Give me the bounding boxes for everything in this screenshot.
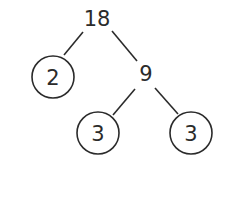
node-label-2: 2 — [46, 66, 59, 90]
node-prime-2: 2 — [32, 56, 74, 98]
edge-18-to-9 — [112, 31, 137, 61]
node-composite-9: 9 — [139, 62, 152, 86]
edge-9-to-3-right — [155, 88, 178, 114]
edge-9-to-3-left — [113, 89, 135, 115]
edge-18-to-2 — [64, 32, 83, 55]
node-label-3-left: 3 — [91, 122, 104, 146]
factor-tree-diagram: 18 2 9 3 3 — [0, 0, 231, 210]
node-prime-3-left: 3 — [77, 112, 119, 154]
node-label-3-right: 3 — [184, 122, 197, 146]
node-prime-3-right: 3 — [170, 112, 212, 154]
node-root-18: 18 — [84, 7, 111, 31]
